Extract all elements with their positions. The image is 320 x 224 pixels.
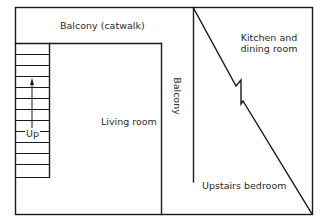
label-kitchen-line2: dining room bbox=[229, 43, 309, 54]
label-kitchen-dining: Kitchen and dining room bbox=[229, 32, 309, 54]
label-living-room: Living room bbox=[101, 116, 157, 127]
label-balcony-side: Balcony bbox=[172, 77, 183, 115]
label-kitchen-line1: Kitchen and bbox=[229, 32, 309, 43]
label-balcony-catwalk: Balcony (catwalk) bbox=[60, 20, 145, 31]
label-upstairs-bedroom: Upstairs bedroom bbox=[202, 180, 286, 191]
label-stairs-up: Up bbox=[25, 128, 40, 139]
